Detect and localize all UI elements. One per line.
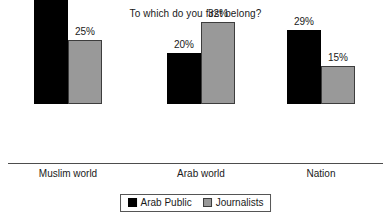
bar-wrap: 15%	[321, 0, 355, 104]
bar-arab-public[interactable]	[34, 0, 68, 104]
bar-journalists[interactable]	[321, 66, 355, 104]
bar-value-label: 15%	[313, 52, 363, 63]
bar-journalists[interactable]	[201, 22, 235, 104]
legend-swatch-icon	[203, 198, 212, 207]
legend-label: Arab Public	[141, 197, 192, 208]
chart-legend: Arab Public Journalists	[120, 194, 272, 212]
legend-item-journalists[interactable]: Journalists	[203, 197, 264, 208]
bar-value-label: 25%	[60, 26, 110, 37]
x-axis-line	[8, 163, 383, 164]
legend-label: Journalists	[216, 197, 264, 208]
bar-value-label: 32%	[193, 8, 243, 19]
bar-chart: To which do you first belong? 45% 25% 20…	[0, 0, 391, 223]
legend-item-arab-public[interactable]: Arab Public	[128, 197, 192, 208]
bar-journalists[interactable]	[68, 40, 102, 104]
category-label-muslim-world: Muslim world	[18, 168, 118, 179]
bar-wrap: 25%	[68, 0, 102, 104]
legend-swatch-icon	[128, 198, 137, 207]
bar-wrap: 45%	[34, 0, 68, 104]
plot-area: 45% 25% 20% 32% 29%	[0, 0, 391, 164]
bar-arab-public[interactable]	[287, 30, 321, 104]
bar-wrap: 32%	[201, 0, 235, 104]
category-label-arab-world: Arab world	[151, 168, 251, 179]
category-label-nation: Nation	[271, 168, 371, 179]
bar-arab-public[interactable]	[167, 53, 201, 104]
